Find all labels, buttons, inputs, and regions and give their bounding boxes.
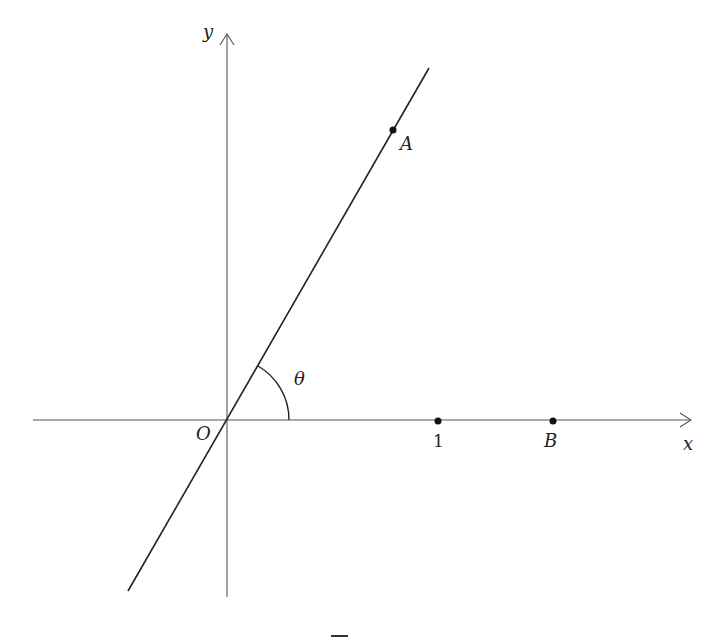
- origin-label: O: [196, 423, 211, 444]
- angle-label: θ: [294, 368, 305, 389]
- point-one: [435, 418, 442, 425]
- x-axis-label: x: [683, 433, 693, 454]
- diagram-canvas: y x O θ A 1 B: [0, 0, 724, 637]
- point-one-label: 1: [433, 431, 444, 451]
- line-OA: [128, 68, 429, 591]
- point-A-label: A: [398, 133, 413, 154]
- point-B-label: B: [543, 430, 557, 451]
- y-axis: [220, 34, 234, 597]
- x-axis: [33, 413, 691, 427]
- y-axis-label: y: [202, 21, 214, 42]
- angle-arc-theta: [258, 366, 289, 420]
- point-B: [550, 418, 557, 425]
- point-A: [390, 127, 397, 134]
